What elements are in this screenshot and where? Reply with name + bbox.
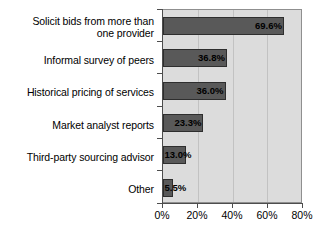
x-axis-tick-40 xyxy=(232,203,233,208)
x-axis-label-40: 40% xyxy=(212,209,252,222)
bar-row-0: 69.6% xyxy=(163,10,301,42)
x-axis-tick-0 xyxy=(162,203,163,208)
bar-value-1: 36.8% xyxy=(198,51,225,65)
x-axis-tick-60 xyxy=(267,203,268,208)
category-axis-labels: Solicit bids from more than one provider… xyxy=(0,9,158,203)
bar-row-4: 13.0% xyxy=(163,139,301,171)
bar-value-0: 69.6% xyxy=(255,19,282,33)
bar-row-3: 23.3% xyxy=(163,107,301,139)
y-axis-tick-0 xyxy=(157,9,162,10)
y-axis-tick-2 xyxy=(157,73,162,74)
bar-row-5: 5.5% xyxy=(163,172,301,204)
bar-value-4: 13.0% xyxy=(165,148,192,162)
category-label-4: Third-party sourcing advisor xyxy=(0,151,154,163)
y-axis-tick-5 xyxy=(157,170,162,171)
y-axis-tick-1 xyxy=(157,41,162,42)
category-label-5: Other xyxy=(0,183,154,195)
category-label-1: Informal survey of peers xyxy=(0,54,154,66)
y-axis-tick-4 xyxy=(157,138,162,139)
x-axis-tick-20 xyxy=(197,203,198,208)
category-label-0-line1: Solicit bids from more than xyxy=(0,15,154,27)
category-label-3: Market analyst reports xyxy=(0,119,154,131)
category-label-5-line1: Other xyxy=(0,183,154,195)
x-axis-label-20: 20% xyxy=(177,209,217,222)
horizontal-bar-chart: Solicit bids from more than one provider… xyxy=(0,0,324,231)
bar-row-2: 36.0% xyxy=(163,75,301,107)
x-axis-label-80: 80% xyxy=(282,209,322,222)
bar-value-2: 36.0% xyxy=(197,84,224,98)
y-axis-tick-3 xyxy=(157,106,162,107)
category-label-2: Historical pricing of services xyxy=(0,86,154,98)
y-axis-line xyxy=(162,9,163,204)
category-label-3-line1: Market analyst reports xyxy=(0,119,154,131)
category-label-1-line1: Informal survey of peers xyxy=(0,54,154,66)
category-label-0-line2: one provider xyxy=(0,27,154,39)
category-label-4-line1: Third-party sourcing advisor xyxy=(0,151,154,163)
bar-value-5: 5.5% xyxy=(165,181,187,195)
category-label-0: Solicit bids from more than one provider xyxy=(0,15,154,39)
category-label-2-line1: Historical pricing of services xyxy=(0,86,154,98)
x-axis-label-60: 60% xyxy=(247,209,287,222)
bar-row-1: 36.8% xyxy=(163,42,301,74)
x-axis-label-0: 0% xyxy=(142,209,182,222)
bar-value-3: 23.3% xyxy=(175,116,202,130)
x-axis-tick-80 xyxy=(302,203,303,208)
plot-area: 69.6% 36.8% 36.0% 23.3% 13.0% 5.5% xyxy=(162,9,302,203)
